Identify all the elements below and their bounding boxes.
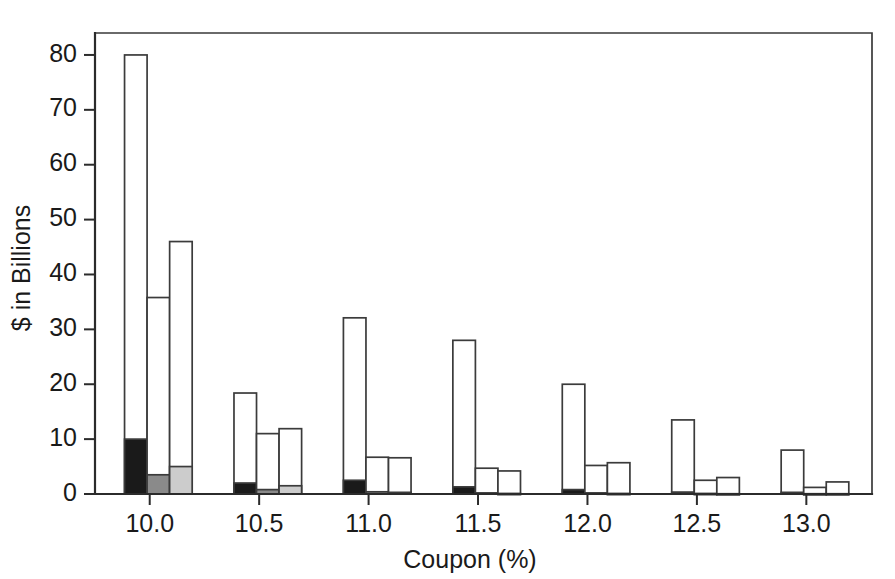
bar-base-segment (234, 483, 257, 494)
y-tick-label: 20 (49, 368, 77, 396)
bar-total (453, 340, 476, 494)
bar-base-segment (279, 486, 302, 494)
bar-total (125, 55, 148, 494)
bar-total (389, 458, 412, 494)
chart-figure: 01020304050607080 10.010.511.011.512.012… (0, 0, 895, 579)
x-tick-label: 12.0 (563, 509, 612, 537)
x-tick-label: 13.0 (782, 509, 831, 537)
bar-total (170, 242, 193, 494)
x-tick-label: 10.5 (235, 509, 284, 537)
bar-total (826, 482, 849, 494)
bar-total (672, 420, 695, 494)
bar-total (717, 478, 740, 494)
y-tick-label: 50 (49, 203, 77, 231)
y-tick-label: 30 (49, 313, 77, 341)
x-tick-label: 11.0 (345, 509, 392, 537)
bar-total (343, 318, 366, 494)
y-tick-label: 80 (49, 39, 77, 67)
x-axis-title: Coupon (%) (403, 545, 536, 573)
y-tick-label: 0 (63, 478, 77, 506)
y-tick-label: 40 (49, 258, 77, 286)
bar-base-segment (125, 439, 148, 494)
y-axis-tick-labels: 01020304050607080 (49, 39, 77, 506)
bar-total (781, 450, 804, 494)
y-tick-label: 70 (49, 93, 77, 121)
x-tick-label: 10.0 (125, 509, 174, 537)
bar-total (366, 457, 389, 494)
bar-total (279, 429, 302, 494)
bar-chart-svg: 01020304050607080 10.010.511.011.512.012… (0, 0, 895, 579)
y-tick-label: 60 (49, 148, 77, 176)
bar-total (694, 480, 717, 494)
bar-total (475, 468, 498, 494)
bar-total (562, 384, 585, 494)
bar-base-segment (170, 467, 193, 494)
bar-total (257, 434, 280, 494)
y-tick-label: 10 (49, 423, 77, 451)
bar-base-segment (147, 475, 170, 494)
y-axis-title: $ in Billions (7, 205, 35, 331)
bar-total (498, 471, 521, 494)
bar-total (585, 465, 608, 494)
bar-total (607, 463, 630, 494)
x-tick-label: 11.5 (455, 509, 502, 537)
bar-base-segment (343, 480, 366, 494)
bar-total (147, 298, 170, 494)
x-tick-label: 12.5 (673, 509, 722, 537)
bar-total (234, 393, 257, 494)
